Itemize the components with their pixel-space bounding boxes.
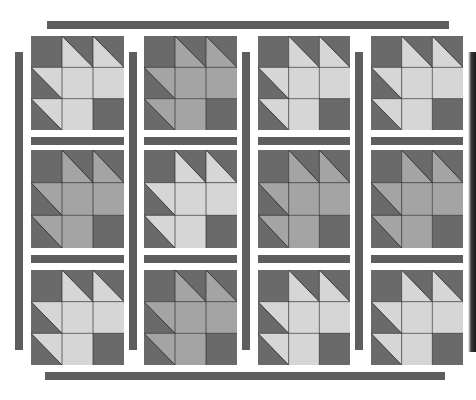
horizontal-sashing-strip	[371, 137, 463, 145]
quilt-block	[258, 150, 350, 248]
quilt-block	[371, 270, 463, 365]
quilt-block	[144, 150, 237, 248]
quilt-block	[144, 36, 237, 130]
horizontal-sashing-strip	[371, 255, 463, 263]
page-edge-shadow	[468, 52, 476, 352]
vertical-sashing-strip	[355, 52, 363, 350]
horizontal-sashing-strip	[258, 255, 350, 263]
vertical-sashing-strip	[129, 52, 137, 350]
horizontal-sashing-strip	[144, 255, 237, 263]
horizontal-sashing-strip	[31, 137, 124, 145]
quilt-block	[371, 36, 463, 130]
quilt-block	[31, 36, 124, 130]
bottom-border-strip	[45, 372, 445, 380]
quilt-block	[371, 150, 463, 248]
top-border-strip	[47, 21, 449, 29]
quilt-block	[31, 150, 124, 248]
quilt-block	[144, 270, 237, 365]
horizontal-sashing-strip	[31, 255, 124, 263]
horizontal-sashing-strip	[144, 137, 237, 145]
quilt-block	[258, 36, 350, 130]
vertical-sashing-strip	[242, 52, 250, 350]
quilt-block	[258, 270, 350, 365]
vertical-sashing-strip	[15, 52, 23, 350]
horizontal-sashing-strip	[258, 137, 350, 145]
quilt-block	[31, 270, 124, 365]
